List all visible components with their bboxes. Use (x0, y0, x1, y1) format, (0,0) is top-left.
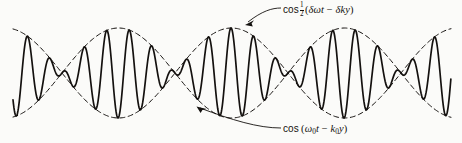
fraction-denominator: 2 (300, 11, 305, 19)
carrier-label: cos (ω0t − k0y) (283, 123, 347, 136)
envelope-leader (245, 8, 281, 27)
envelope-label-function: cos (283, 4, 299, 15)
carrier-label-term1-tail: t (316, 123, 319, 134)
envelope-leader-line (248, 8, 281, 22)
carrier-curve (13, 28, 451, 118)
wave-plot (0, 0, 462, 143)
envelope-label-close-paren: ) (350, 4, 354, 15)
wave-modulation-figure: cos12(δωt − δky) cos (ω0t − k0y) (0, 0, 462, 143)
envelope-label-term1: δωt (309, 4, 325, 15)
carrier-curve-group (13, 28, 451, 118)
envelope-label-operator: − (327, 4, 333, 15)
envelope-label-fraction: 12 (300, 2, 305, 18)
carrier-label-function: cos (283, 123, 299, 134)
envelope-label: cos12(δωt − δky) (283, 2, 354, 18)
carrier-label-close-paren: ) (344, 123, 348, 134)
envelope-label-term2: δky (336, 4, 351, 15)
carrier-label-operator: − (322, 123, 328, 134)
